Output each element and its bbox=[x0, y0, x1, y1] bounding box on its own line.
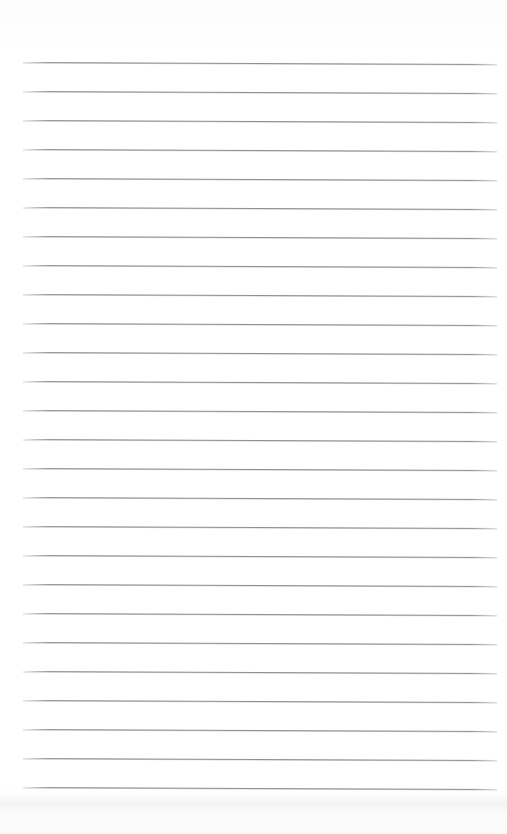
ruled-line bbox=[23, 410, 497, 413]
ruled-line bbox=[23, 439, 497, 442]
ruled-line bbox=[23, 381, 497, 384]
ruled-line bbox=[23, 584, 497, 587]
ruled-line bbox=[23, 265, 497, 268]
ruled-line bbox=[23, 555, 497, 558]
ruled-line bbox=[23, 178, 497, 181]
ruled-line bbox=[23, 149, 497, 152]
ruled-line bbox=[23, 294, 497, 297]
ruled-line bbox=[23, 120, 497, 123]
ruled-line bbox=[23, 642, 497, 645]
ruled-line bbox=[23, 207, 497, 210]
ruled-line bbox=[23, 729, 497, 732]
ruled-line bbox=[23, 700, 497, 703]
ruled-line bbox=[23, 671, 497, 674]
ruled-line bbox=[23, 236, 497, 239]
ruled-line bbox=[23, 526, 497, 529]
ruled-line bbox=[23, 613, 497, 616]
ruled-line bbox=[23, 497, 497, 500]
ruled-line bbox=[23, 787, 497, 790]
ruled-line bbox=[23, 352, 497, 355]
lined-paper-page bbox=[0, 0, 507, 834]
ruled-line bbox=[23, 468, 497, 471]
ruled-line bbox=[23, 323, 497, 326]
ruled-line bbox=[23, 62, 497, 65]
ruled-line bbox=[23, 91, 497, 94]
ruled-line bbox=[23, 758, 497, 761]
ruled-lines-layer bbox=[0, 0, 507, 834]
